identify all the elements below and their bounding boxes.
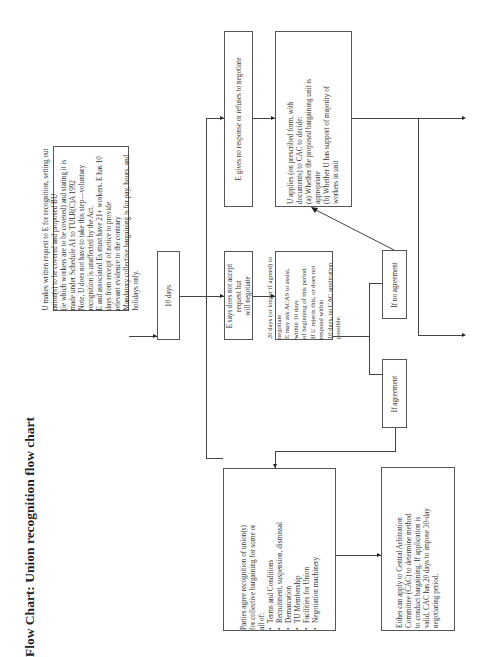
will-negotiate-text: E says does not accept request but will … [225,253,252,339]
connector [333,336,369,337]
applies-line: workers in unit [332,34,341,204]
if-agreement-label: If agreement [390,361,399,427]
cac-text: Either can apply to Central Arbitration … [396,470,441,628]
request-box: U makes written request to E for recogni… [53,146,129,311]
cac-line: to conduct bargaining. If application is [414,470,423,628]
cac-line: valid, CAC has 20 days to impose 30-day [423,470,432,628]
list-item: Terms and Conditions [266,470,275,623]
applies-line: U applies (on prescribed form, with [287,34,296,204]
if-no-agreement-label: If no agreement [390,252,399,318]
arrow-icon [153,334,157,338]
applies-line: (a) Whether the proposed bargaining unit… [305,34,314,204]
request-line: relevant evidence to the contrary [114,147,123,310]
twenty-days-text: 20 days (or longer if agreed) to negotia… [266,253,343,339]
connector [336,555,381,556]
connector [206,118,207,458]
cac-box: Either can apply to Central Arbitration … [381,467,455,631]
if-no-agreement-box: If no agreement [382,250,407,319]
connector [206,458,223,459]
cac-line: Committee (CAC) to determine method [405,470,414,628]
parties-agree-text: Parties agree recognition of union(s) fo… [239,470,320,630]
connector [418,335,462,336]
applies-box: U applies (on prescribed form, with docu… [275,31,352,207]
twenty-days-line: E may ask ACAS to assist, within 10 days [283,253,300,339]
connector [395,428,396,452]
twenty-days-line: 10 days, no CAC application possible. [325,253,342,339]
parties-intro-line: Parties agree recognition of union(s) [239,470,248,630]
connector [275,451,395,452]
applies-line: appropriate [314,34,323,204]
parties-intro-line: all of: [257,470,266,630]
connector [369,283,370,375]
connector [418,118,419,336]
bargaining-topics-list: Terms and Conditions Recruitment, suspen… [266,470,320,630]
list-item: Facilities for Union [302,470,311,623]
arrow-icon [273,464,277,468]
applies-line: documents) to CAC to decide: [296,34,305,204]
request-text: U makes written request to E for recogni… [42,147,141,310]
cac-line: negotiating period. [432,470,441,628]
connector [352,118,462,119]
request-line: Mandatory collective bargaining is for p… [123,147,141,310]
page-title: Flow Chart: Union recognition flow chart [22,417,38,657]
applies-text: U applies (on prescribed form, with docu… [287,34,341,204]
parties-intro-line: for collective bargaining for some or [248,470,257,630]
connector [180,296,224,297]
arrow-icon [377,553,381,557]
twenty-days-line: of beginning of this period. [300,253,309,339]
arrow-icon [271,294,275,298]
will-negotiate-line: E says does not accept request but [225,253,243,339]
arrow-icon [220,294,224,298]
arrow-icon [462,333,466,337]
connector [369,374,382,375]
arrow-icon [220,116,224,120]
list-item: TU Membership [293,470,302,623]
ten-days-box: 10 days [157,251,180,340]
cac-line: Either can apply to Central Arbitration [396,470,405,628]
ten-days-label: 10 days [164,256,173,336]
if-agreement-box: If agreement [382,359,407,428]
twenty-days-line: If U rejects this, or does not respond w… [308,253,325,339]
twenty-days-box: 20 days (or longer if agreed) to negotia… [275,251,333,340]
parties-agree-box: Parties agree recognition of union(s) fo… [223,468,336,631]
request-line: Note, U does not have to take this step—… [78,147,96,310]
list-item: Negotiation machinery [311,470,320,623]
applies-line: (b) Whether U has support of majority of [323,34,332,204]
request-line: U makes written request to E for recogni… [42,147,60,310]
no-response-box: E gives no response or refuses to negoti… [224,31,253,207]
list-item: Demarcation [284,470,293,623]
request-line: E and associated Es must have 21+ worker… [96,147,114,310]
no-response-label: E gives no response or refuses to negoti… [234,34,243,204]
arrow-icon [462,116,466,120]
list-item: Recruitment, suspension, dismissal [275,470,284,623]
will-negotiate-line: will negotiate [243,253,252,339]
request-line: (ie which workers are to be covered) and… [60,147,78,310]
connector [369,283,382,284]
arrow-icon [271,116,275,120]
will-negotiate-box: E says does not accept request but will … [224,251,253,340]
